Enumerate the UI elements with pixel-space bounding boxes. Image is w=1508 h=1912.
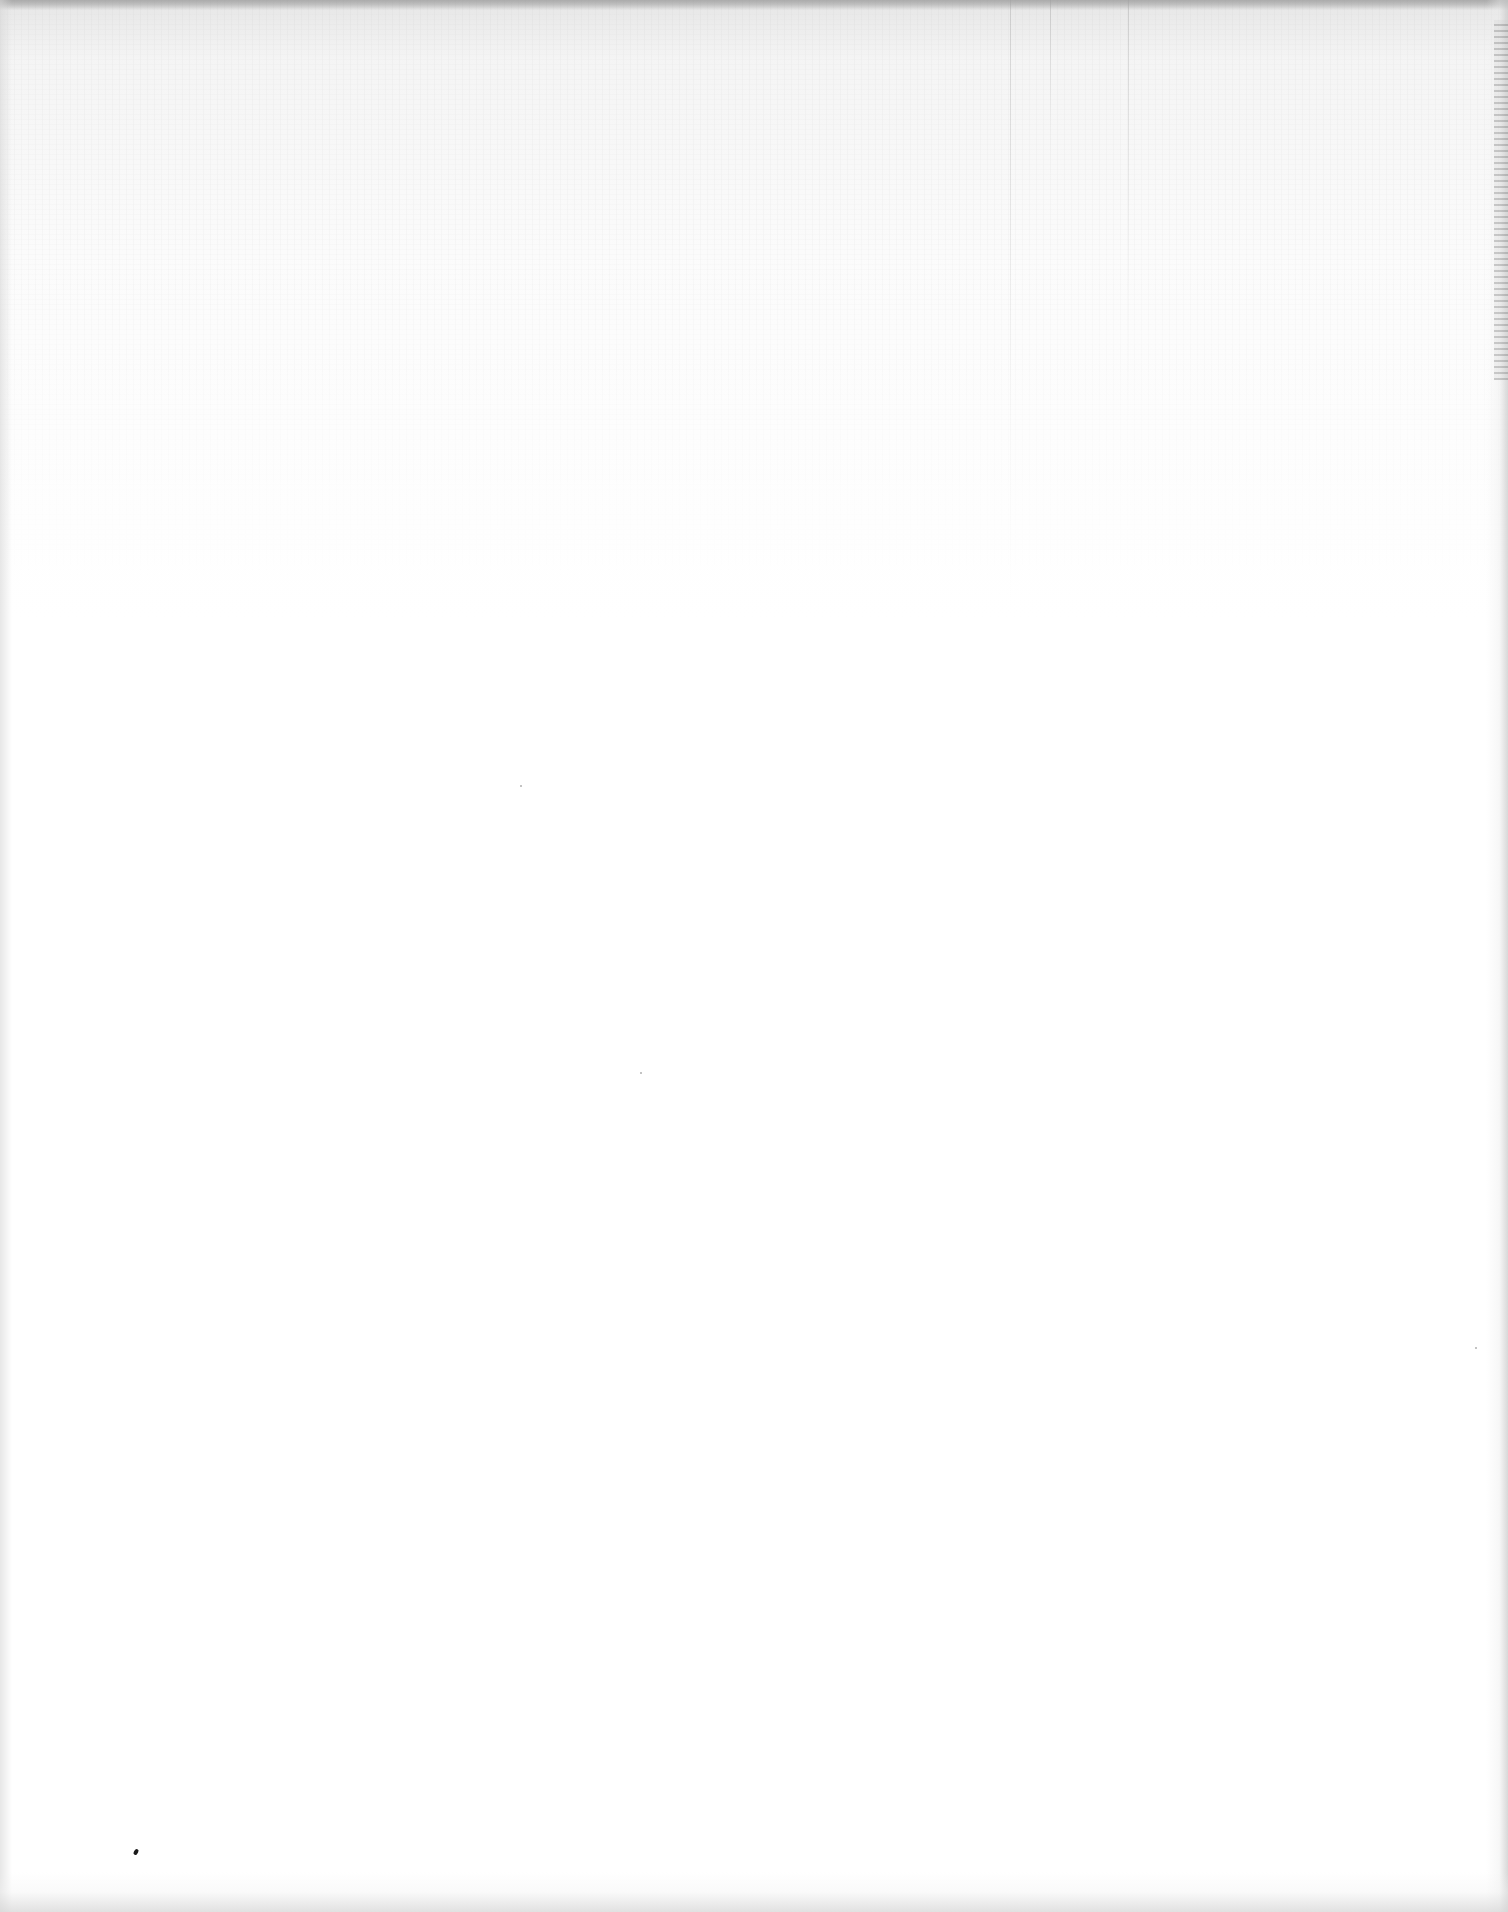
- dust-dot: [520, 785, 522, 787]
- top-edge-shadow: [0, 0, 1508, 10]
- ink-speck: [133, 1848, 139, 1855]
- paper-crease-line: [1010, 0, 1011, 600]
- right-edge-binding-texture: [1494, 20, 1508, 380]
- bottom-edge-shadow: [0, 1872, 1508, 1912]
- dust-dot: [640, 1072, 642, 1074]
- left-edge-shadow: [0, 0, 12, 1912]
- scan-speckle-texture: [0, 0, 1508, 600]
- blank-document-page: [0, 0, 1508, 1912]
- dust-dot: [1475, 1347, 1477, 1349]
- paper-crease-line: [1050, 0, 1051, 180]
- paper-crease-line: [1128, 0, 1129, 420]
